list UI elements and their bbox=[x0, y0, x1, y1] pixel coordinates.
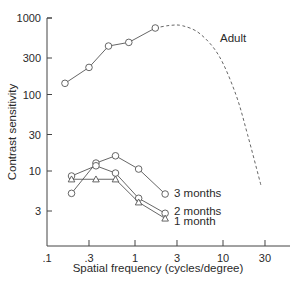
circle-marker bbox=[112, 153, 119, 160]
y-tick-label: 1000 bbox=[17, 12, 41, 24]
circle-marker bbox=[105, 43, 112, 50]
series-3-months: 3 months bbox=[68, 153, 221, 199]
circle-marker bbox=[86, 64, 93, 71]
y-axis-title: Contrast sensitivity bbox=[6, 84, 18, 181]
circle-marker bbox=[152, 25, 159, 32]
series-line bbox=[65, 28, 155, 83]
series-1-month: 1 month bbox=[68, 176, 215, 227]
x-tick-label: 30 bbox=[259, 252, 271, 264]
extrapolation-dashed-line bbox=[155, 25, 261, 185]
series-adult: Adult bbox=[62, 25, 261, 186]
circle-marker bbox=[162, 191, 169, 198]
circle-marker bbox=[125, 39, 132, 46]
x-axis-title: Spatial frequency (cycles/degree) bbox=[73, 262, 244, 274]
circle-marker bbox=[68, 190, 75, 197]
series-layer: Adult3 months2 months1 month bbox=[62, 25, 261, 227]
y-tick-label: 300 bbox=[23, 52, 41, 64]
y-tick-label: 100 bbox=[23, 89, 41, 101]
contrast-sensitivity-chart: 310301003001000.1.3131030 Adult3 months2… bbox=[0, 0, 298, 283]
circle-marker bbox=[62, 80, 69, 87]
y-tick-label: 30 bbox=[29, 129, 41, 141]
series-label: 1 month bbox=[174, 215, 216, 227]
series-line bbox=[72, 179, 166, 218]
series-label: 3 months bbox=[174, 187, 222, 199]
circle-marker bbox=[135, 166, 142, 173]
y-tick-label: 10 bbox=[29, 165, 41, 177]
series-label: Adult bbox=[220, 32, 247, 44]
x-tick-label: .1 bbox=[42, 252, 51, 264]
axes: 310301003001000.1.3131030 bbox=[17, 12, 290, 264]
y-tick-label: 3 bbox=[35, 205, 41, 217]
circle-marker bbox=[93, 162, 100, 169]
